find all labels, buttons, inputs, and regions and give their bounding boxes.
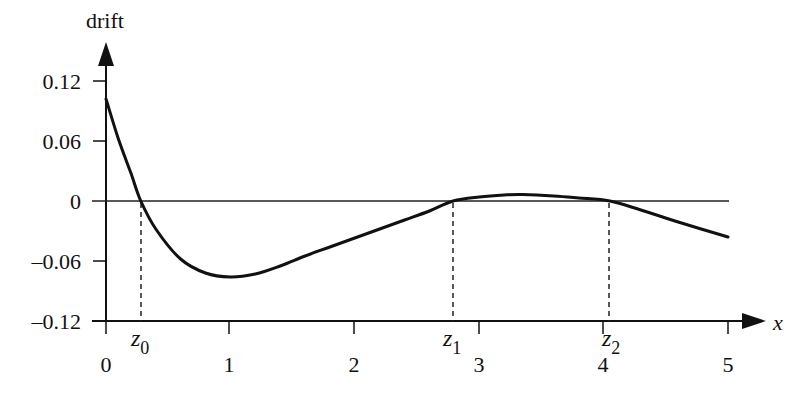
- z0-label: z0: [130, 325, 149, 358]
- x-tick-labels: 0 1 2 3 4 5: [101, 352, 734, 377]
- x-tick-label: 1: [224, 352, 235, 377]
- x-tick-label: 2: [349, 352, 360, 377]
- y-axis-arrow-icon: [98, 42, 114, 66]
- y-tick-label: –0.06: [31, 249, 82, 274]
- x-tick-label: 4: [598, 352, 609, 377]
- x-axis-arrow-icon: [742, 313, 766, 329]
- y-tick-label: 0: [70, 189, 81, 214]
- root-markers: [141, 203, 609, 321]
- y-axis-title: drift: [86, 8, 124, 33]
- y-ticks: [93, 81, 106, 261]
- root-marker-labels: z0 z1 z2: [130, 325, 620, 358]
- y-tick-label: 0.12: [43, 69, 82, 94]
- x-axis-title: x: [772, 310, 783, 335]
- x-tick-label: 5: [723, 352, 734, 377]
- drift-chart: drift x 0.12 0.06 0 –0.06 –0.12 0 1 2 3 …: [0, 0, 800, 395]
- y-tick-labels: 0.12 0.06 0 –0.06 –0.12: [31, 69, 82, 334]
- x-tick-label: 3: [474, 352, 485, 377]
- x-tick-label: 0: [101, 352, 112, 377]
- y-tick-label: 0.06: [43, 129, 82, 154]
- drift-curve: [106, 99, 728, 277]
- z1-label: z1: [442, 325, 461, 358]
- y-tick-label: –0.12: [31, 309, 82, 334]
- x-ticks: [106, 321, 728, 334]
